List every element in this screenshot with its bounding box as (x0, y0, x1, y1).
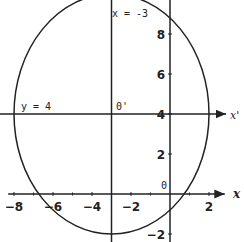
horizontal-line-label: y = 4 (21, 101, 51, 112)
x-tick-label: −2 (122, 200, 140, 214)
x-prime-axis-label: x' (230, 109, 239, 122)
x-tick-label: −4 (83, 200, 101, 214)
y-tick-label: 6 (157, 68, 165, 82)
y-tick-label: 4 (157, 108, 165, 122)
x-tick-label: −8 (5, 200, 23, 214)
y-tick-label: 8 (157, 28, 165, 42)
origin-prime-label: 0' (116, 101, 128, 112)
y-tick-label: 2 (157, 148, 165, 162)
origin-label: 0 (161, 180, 167, 191)
x-axis-label: x (232, 187, 241, 201)
ellipse-diagram: x x' 0' 0 x = -3 y = 4 −8−6−4−22−22468 (0, 0, 244, 242)
y-tick-label: −2 (147, 228, 165, 242)
vertical-line-label: x = -3 (112, 8, 148, 19)
x-tick-label: 2 (205, 200, 213, 214)
x-tick-label: −6 (44, 200, 62, 214)
